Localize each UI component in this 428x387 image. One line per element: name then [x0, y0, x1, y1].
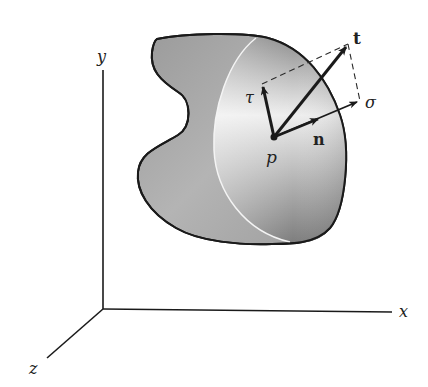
stress-vector-diagram: y x z t τ σ n p	[0, 0, 428, 387]
z-axis	[47, 309, 103, 358]
y-axis-label: y	[96, 47, 107, 66]
dashed-line-t-to-sigma	[348, 44, 360, 101]
z-axis-label: z	[28, 359, 38, 378]
x-axis	[103, 309, 392, 312]
label-sigma: σ	[365, 93, 377, 112]
label-n: n	[313, 130, 325, 149]
label-tau: τ	[245, 88, 255, 107]
x-axis-label: x	[399, 302, 408, 321]
label-t: t	[353, 28, 361, 48]
point-p-dot	[271, 134, 278, 141]
label-p: p	[266, 147, 277, 167]
